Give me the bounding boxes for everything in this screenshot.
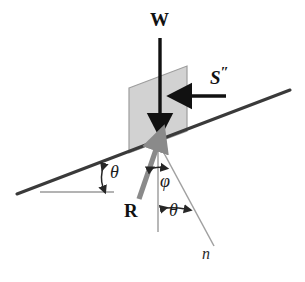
reaction-label: R	[124, 201, 138, 220]
weight-label: W	[150, 10, 169, 29]
incline-angle-indicator	[101, 164, 104, 187]
shear-force-letter: S	[210, 67, 221, 88]
normal-direction-label: n	[202, 246, 210, 262]
friction-angle-label: φ	[160, 172, 170, 190]
shear-force-prime-marks: ″	[221, 64, 229, 80]
diagram-canvas	[0, 0, 305, 282]
normal-direction-line	[158, 142, 214, 246]
force-diagram-figure: W S″ R n θ φ θ	[0, 0, 305, 282]
incline-angle-label: θ	[110, 163, 119, 181]
normal-offset-angle-label: θ	[169, 201, 178, 219]
reaction-force-arrow	[139, 146, 157, 199]
shear-force-label: S″	[210, 65, 229, 87]
